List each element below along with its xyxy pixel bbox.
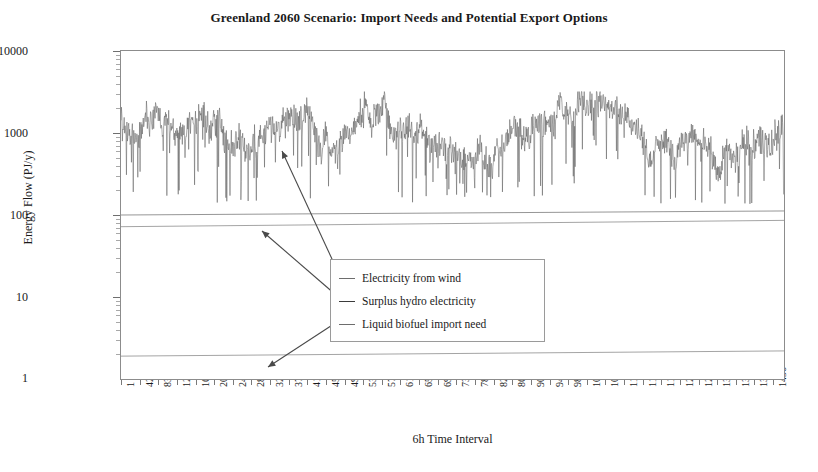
x-tick-mark [140,380,141,385]
x-tick-mark [531,380,532,385]
x-tick-mark [270,380,271,385]
legend-line-icon-biofuel [339,324,355,325]
y-tick-label: 10 [0,290,28,305]
x-tick-mark [643,380,644,385]
legend-item-biofuel[interactable]: Liquid biofuel import need [339,313,536,336]
y-tick-label-min: 1 [0,371,28,386]
series-surplus-hydro-electricity [121,211,784,215]
y-tick-label: 1000 [0,126,28,141]
x-tick-mark [568,380,569,385]
x-tick-mark [196,380,197,385]
x-tick-mark [587,380,588,385]
series-electricity-from-wind [121,92,784,204]
x-tick-mark [233,380,234,385]
x-tick-mark [345,380,346,385]
x-tick-mark [400,380,401,385]
x-tick-mark [475,380,476,385]
x-tick-mark [363,380,364,385]
x-tick-mark [214,380,215,385]
x-tick-mark [158,380,159,385]
y-tick-mark [113,51,120,52]
x-tick-mark [680,380,681,385]
series-secondary-flat-line [121,220,784,226]
y-tick-label: 10000 [0,44,28,59]
x-tick-mark [754,380,755,385]
x-tick-mark [177,380,178,385]
x-tick-mark [736,380,737,385]
x-tick-mark [624,380,625,385]
x-axis-label: 6h Time Interval [120,432,785,447]
x-tick-mark [699,380,700,385]
x-tick-mark [382,380,383,385]
x-tick-mark [438,380,439,385]
y-tick-mark [113,215,120,216]
x-tick-mark [773,380,774,385]
chart-title: Greenland 2060 Scenario: Import Needs an… [0,10,818,26]
x-tick-mark [605,380,606,385]
x-tick-mark [661,380,662,385]
x-tick-mark [456,380,457,385]
x-tick-mark [289,380,290,385]
x-tick-mark [419,380,420,385]
legend-box[interactable]: Electricity from wind Surplus hydro elec… [330,259,545,342]
x-tick-mark [121,380,122,385]
legend-label-biofuel: Liquid biofuel import need [362,319,486,331]
chart-figure: Greenland 2060 Scenario: Import Needs an… [0,0,818,472]
legend-line-icon-hydro [339,301,355,302]
legend-label-wind: Electricity from wind [362,273,461,285]
legend-line-icon-wind [339,278,355,279]
y-tick-label: 100 [0,208,28,223]
x-tick-mark [307,380,308,385]
x-tick-mark [717,380,718,385]
y-tick-mark [113,133,120,134]
legend-item-hydro[interactable]: Surplus hydro electricity [339,290,536,313]
x-tick-mark [494,380,495,385]
legend-item-wind[interactable]: Electricity from wind [339,267,536,290]
legend-label-hydro: Surplus hydro electricity [362,296,476,308]
x-tick-mark [550,380,551,385]
x-tick-mark [326,380,327,385]
y-tick-mark [113,297,120,298]
series-liquid-biofuel-import-need [121,351,784,356]
x-tick-mark [251,380,252,385]
x-tick-mark [512,380,513,385]
